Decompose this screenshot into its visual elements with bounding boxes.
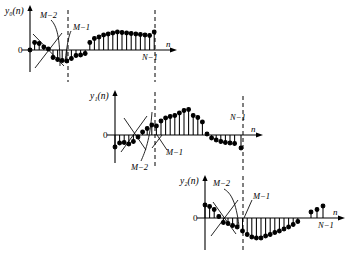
plot2-y-axis-arrow [202,175,207,181]
plot-y0: y₀(n) M−2 M−1 0 N−1 n [4,5,177,82]
plot1-zero-label: 0 [103,130,108,140]
plot2-x-axis-arrow [338,216,345,221]
plot-y1: y₁(n) M−2 M−1 0 N−1 n [89,90,263,172]
plot1-y-label: y₁(n) [89,91,109,102]
plot2-y-label: y₂(n) [179,176,199,187]
plot2-x-label: n [333,207,338,217]
plot0-zero-label: 0 [18,45,23,55]
plot0-stems [28,30,156,63]
plot0-m-minus-2-label: M−2 [39,10,58,20]
plot1-m-minus-1-label: M−1 [165,147,183,157]
plot1-stems [113,108,243,150]
plot1-x-axis-arrow [256,133,263,138]
figure-canvas: y₀(n) M−2 M−1 0 N−1 n [0,0,360,257]
plot0-n-minus-1-label: N−1 [141,52,158,62]
plot0-x-label: n [166,39,171,49]
plot2-m-minus-1-label: M−1 [252,191,270,201]
plot2-zero-label: 0 [193,213,198,223]
plot0-m-minus-1-label: M−1 [72,22,90,32]
three-stem-plots-figure: y₀(n) M−2 M−1 0 N−1 n [0,0,360,257]
plot1-m-minus-2-label: M−2 [130,162,149,172]
plot0-y-label: y₀(n) [4,6,24,17]
plot0-x-axis-arrow [170,48,177,53]
plot2-m-minus-2-label: M−2 [212,178,231,188]
plot1-n-minus-1-label: N−1 [229,112,246,122]
plot0-y-axis-arrow [27,5,32,11]
plot2-leader-lines [211,189,252,236]
plot1-y-axis-arrow [112,90,117,96]
plot-y2: y₂(n) M−2 M−1 0 N−1 n [179,175,345,250]
plot1-x-label: n [251,124,256,134]
plot2-n-minus-1-label: N−1 [317,220,334,230]
